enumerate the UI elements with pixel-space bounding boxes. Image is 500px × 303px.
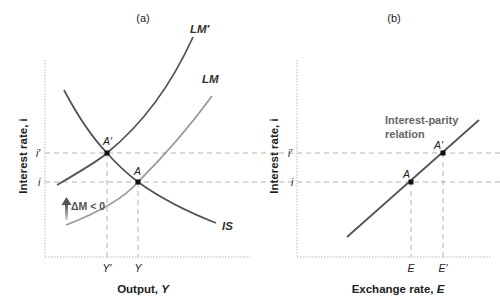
is-label: IS [222, 220, 233, 232]
figure: (a) A′ A LM′ LM IS ΔM < 0 i′ i Y′ Y [0, 0, 500, 303]
panel-a-title: (a) [136, 12, 149, 24]
point-a-label: A [133, 165, 141, 177]
point-a-prime-marker [105, 151, 110, 156]
tick-i-prime-a: i′ [36, 147, 41, 159]
point-a-prime-label: A′ [102, 135, 113, 147]
lm-prime-label: LM′ [190, 23, 211, 35]
lm-prime-curve [57, 37, 193, 185]
panel-b-title: (b) [387, 12, 400, 24]
tick-i-b: i [291, 176, 294, 188]
panel-b: (b) A A′ Interest-parity relation i′ i E… [268, 12, 492, 295]
panel-a: (a) A′ A LM′ LM IS ΔM < 0 i′ i Y′ Y [17, 12, 500, 295]
point-a-prime-marker-b [441, 151, 446, 156]
tick-i-a: i [38, 176, 41, 188]
point-a-label-b: A [402, 168, 410, 180]
tick-y-prime: Y′ [103, 262, 113, 274]
point-a-marker [136, 180, 141, 185]
point-a-prime-label-b: A′ [433, 139, 444, 151]
delta-m-annotation: ΔM < 0 [71, 200, 105, 212]
lm-label: LM [202, 73, 219, 85]
tick-e: E [407, 262, 415, 274]
panel-a-x-title: Output, Y [117, 283, 170, 295]
panel-a-y-title: Interest rate, i [17, 118, 29, 193]
tick-y: Y [134, 262, 142, 274]
interest-parity-label-line1: Interest-parity [385, 114, 459, 126]
panel-b-y-title: Interest rate, i [268, 118, 280, 193]
tick-e-prime: E′ [439, 262, 449, 274]
point-a-marker-b [409, 180, 414, 185]
up-arrow-icon [62, 197, 72, 220]
interest-parity-label-line2: relation [385, 128, 425, 140]
panel-b-x-title: Exchange rate, E [352, 283, 445, 295]
